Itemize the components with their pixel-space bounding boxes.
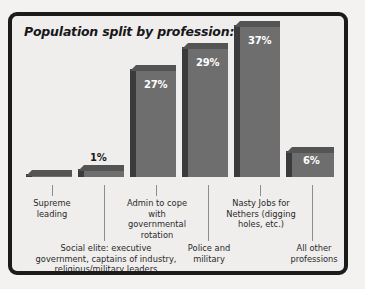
leader-line-social-elite	[104, 185, 105, 241]
bar-value-nasty-jobs: 37%	[248, 35, 271, 46]
bar-social-elite	[78, 165, 124, 177]
bar-value-police-military: 29%	[196, 57, 219, 68]
axis-label-social-elite: Social elite: executive government, capt…	[18, 243, 194, 275]
bar-supreme-leading	[26, 170, 72, 177]
leader-line-nasty-jobs	[260, 185, 261, 196]
bar-value-all-other: 6%	[303, 155, 320, 166]
axis-label-all-other: All other professions	[280, 243, 348, 264]
bar-top-face	[26, 170, 72, 176]
bar-value-social-elite: 1%	[90, 152, 107, 163]
leader-line-police	[208, 185, 209, 241]
axis-label-admin: Admin to cope with governmental rotation	[118, 198, 196, 240]
bar-top-face	[78, 165, 124, 171]
leader-line-admin	[156, 185, 157, 196]
bar-top-face	[286, 147, 334, 153]
axis-label-supreme-leading: Supreme leading	[20, 198, 84, 219]
bar-top-face	[182, 43, 228, 49]
leader-line-supreme	[52, 185, 53, 196]
axis-label-police-military: Police and military	[178, 243, 240, 264]
bar-top-face	[234, 21, 280, 27]
bar-front-face	[240, 25, 280, 177]
bar-value-admin: 27%	[144, 79, 167, 90]
leader-line-all-other	[312, 185, 313, 241]
axis-label-nasty-jobs: Nasty Jobs for Nethers (digging holes, e…	[223, 198, 299, 230]
chart-frame: Population split by profession: 1% 27%	[8, 12, 348, 275]
bar-top-face	[130, 65, 176, 71]
chart-plot-area: 1% 27% 29% 37%	[12, 16, 344, 271]
